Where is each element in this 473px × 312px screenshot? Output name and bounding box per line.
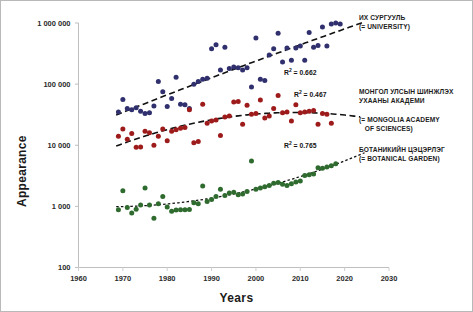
- data-point: [271, 181, 276, 186]
- data-point: [311, 171, 316, 176]
- data-point: [134, 207, 139, 212]
- data-point: [324, 165, 329, 170]
- y-tick-label: 100: [58, 263, 71, 272]
- data-point: [329, 121, 334, 126]
- data-point: [147, 110, 152, 115]
- data-point: [289, 58, 294, 63]
- data-point: [125, 137, 130, 142]
- data-point: [169, 129, 174, 134]
- data-point: [298, 179, 303, 184]
- r2-label-academy: R2 = 0.467: [294, 89, 326, 98]
- data-point: [182, 207, 187, 212]
- data-point: [231, 65, 236, 70]
- data-point: [271, 106, 276, 111]
- x-tick-label: 2000: [238, 274, 274, 283]
- data-point: [209, 118, 214, 123]
- x-tick-label: 2010: [282, 274, 318, 283]
- data-point: [156, 201, 161, 206]
- data-point: [125, 106, 130, 111]
- data-point: [262, 78, 267, 83]
- data-point: [284, 46, 289, 51]
- data-point: [302, 58, 307, 63]
- data-point: [240, 191, 245, 196]
- y-tick-label: 1 000 000: [37, 19, 70, 28]
- data-point: [138, 109, 143, 114]
- data-point: [147, 203, 152, 208]
- data-point: [169, 96, 174, 101]
- x-tick-label: 1980: [149, 274, 185, 283]
- data-point: [249, 159, 254, 164]
- data-point: [245, 65, 250, 70]
- data-point: [333, 21, 338, 26]
- y-axis-title: Appearance: [15, 135, 29, 207]
- data-points: [116, 21, 343, 221]
- data-point: [311, 108, 316, 113]
- data-point: [338, 22, 343, 27]
- series-label-university: ИХ СУРГУУЛЬ(= UNIVERSITY): [359, 13, 410, 31]
- data-point: [284, 183, 289, 188]
- data-point: [267, 114, 272, 119]
- data-point: [187, 107, 192, 112]
- data-point: [160, 126, 165, 131]
- data-point: [209, 46, 214, 51]
- data-point: [258, 77, 263, 82]
- data-point: [143, 185, 148, 190]
- data-point: [280, 110, 285, 115]
- data-point: [200, 184, 205, 189]
- data-point: [129, 210, 134, 215]
- data-point: [200, 77, 205, 82]
- data-point: [214, 194, 219, 199]
- data-point: [174, 127, 179, 132]
- data-point: [289, 118, 294, 123]
- y-tick-label: 10 000: [48, 141, 71, 150]
- data-point: [302, 173, 307, 178]
- data-point: [316, 122, 321, 127]
- data-point: [245, 103, 250, 108]
- data-point: [258, 185, 263, 190]
- y-tick-label: 1 000: [52, 202, 71, 211]
- data-point: [120, 97, 125, 102]
- data-point: [320, 25, 325, 30]
- data-point: [218, 187, 223, 192]
- data-point: [329, 22, 334, 27]
- chart-figure: Appearance Years 1001 00010 000100 0001 …: [0, 0, 473, 312]
- data-point: [143, 129, 148, 134]
- data-point: [240, 122, 245, 127]
- data-point: [165, 138, 170, 143]
- x-axis-title: Years: [1, 291, 472, 305]
- r2-label-university: R2 = 0.662: [284, 67, 316, 76]
- x-axis-ticks: [79, 268, 390, 272]
- data-point: [143, 111, 148, 116]
- data-point: [191, 140, 196, 145]
- data-point: [329, 163, 334, 168]
- data-point: [116, 134, 121, 139]
- data-point: [289, 181, 294, 186]
- data-point: [178, 102, 183, 107]
- data-point: [249, 112, 254, 117]
- data-point: [205, 76, 210, 81]
- data-point: [196, 201, 201, 206]
- data-point: [284, 109, 289, 114]
- data-point: [214, 117, 219, 122]
- data-point: [320, 166, 325, 171]
- data-point: [316, 165, 321, 170]
- data-point: [307, 109, 312, 114]
- x-tick-label: 1990: [194, 274, 230, 283]
- data-point: [227, 191, 232, 196]
- data-point: [324, 44, 329, 49]
- data-point: [222, 45, 227, 50]
- data-point: [231, 190, 236, 195]
- y-axis-ticks: [75, 23, 79, 268]
- data-point: [276, 31, 281, 36]
- data-point: [311, 45, 316, 50]
- data-point: [160, 194, 165, 199]
- data-point: [138, 144, 143, 149]
- data-point: [187, 207, 192, 212]
- data-point: [169, 209, 174, 214]
- data-point: [320, 111, 325, 116]
- data-point: [271, 46, 276, 51]
- data-point: [156, 79, 161, 84]
- r2-label-botanical: R2 = 0.765: [284, 140, 316, 149]
- x-tick-label: 1960: [61, 274, 97, 283]
- data-point: [236, 65, 241, 70]
